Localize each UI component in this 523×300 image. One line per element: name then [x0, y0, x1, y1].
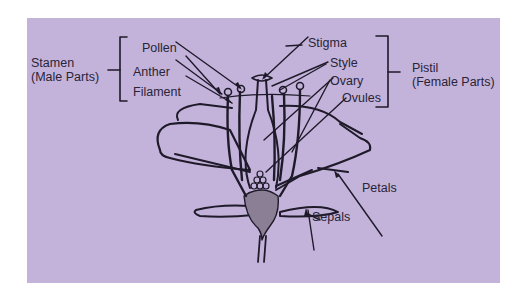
flower-illustration: [0, 0, 523, 300]
label-sepals: Sepals: [312, 210, 350, 224]
stamen-title: Stamen: [31, 56, 99, 70]
label-stigma: Stigma: [308, 36, 347, 50]
pistil-title: Pistil: [412, 61, 495, 75]
label-filament: Filament: [133, 85, 181, 99]
pistil-subtitle: (Female Parts): [412, 75, 495, 89]
stigma: [252, 75, 272, 81]
stamen-subtitle: (Male Parts): [31, 70, 99, 84]
label-ovules: Ovules: [342, 91, 381, 105]
stamen-group-label: Stamen (Male Parts): [31, 56, 99, 84]
label-ovary: Ovary: [330, 74, 363, 88]
label-pollen: Pollen: [142, 41, 177, 55]
label-style: Style: [330, 56, 358, 70]
label-anther: Anther: [133, 65, 170, 79]
label-petals: Petals: [362, 181, 397, 195]
receptacle: [244, 190, 278, 240]
stamen-bracket: [108, 37, 127, 101]
pistil-group-label: Pistil (Female Parts): [412, 61, 495, 89]
ovules: [251, 171, 269, 189]
